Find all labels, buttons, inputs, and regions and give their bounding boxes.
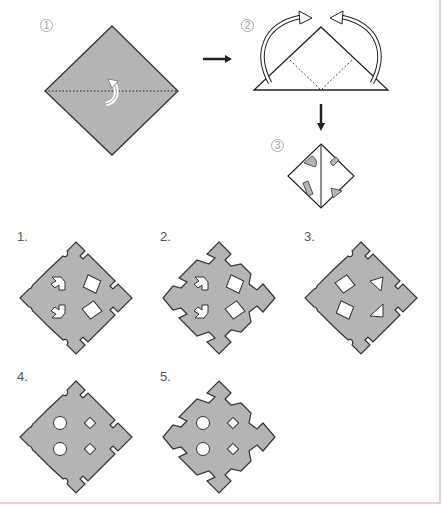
step-2 (254, 11, 388, 90)
triangle-paper (254, 27, 388, 90)
pattern-2-label: 2. (160, 229, 171, 244)
page-border-right (439, 0, 441, 504)
page-border-bottom (0, 502, 441, 504)
step-1-label: 1 (40, 19, 53, 32)
pattern-1-label: 1. (17, 229, 28, 244)
pattern-5-label: 5. (160, 369, 171, 384)
down-arrow-icon (317, 104, 325, 131)
right-arrow-icon (203, 55, 232, 63)
step-1 (45, 26, 178, 155)
step-2-label: 2 (241, 19, 254, 32)
snowflake-pattern-1 (20, 242, 132, 354)
hole-circle-shape (197, 417, 210, 430)
snowflake-pattern-2 (163, 242, 275, 354)
snowflake-pattern-4 (20, 381, 132, 493)
pattern-4-label: 4. (17, 369, 28, 384)
hole-circle-shape (197, 443, 210, 456)
hole-circle-shape (54, 443, 67, 456)
snowflake-pattern-5 (163, 381, 275, 493)
step-3 (288, 144, 354, 208)
hole-circle-shape (54, 417, 67, 430)
snowflake-pattern-3 (305, 242, 417, 354)
pattern-3-label: 3. (304, 229, 315, 244)
snowflake-instructions-diagram (0, 0, 442, 506)
step-3-label: 3 (271, 139, 284, 152)
